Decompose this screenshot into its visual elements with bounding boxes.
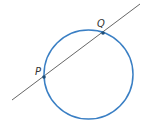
- label-q: Q: [97, 18, 105, 29]
- circle: [44, 30, 133, 119]
- point-q: [101, 31, 105, 35]
- secant-diagram: P Q: [0, 0, 147, 131]
- point-p: [42, 75, 46, 79]
- label-p: P: [35, 66, 42, 77]
- secant-line: [12, 4, 140, 100]
